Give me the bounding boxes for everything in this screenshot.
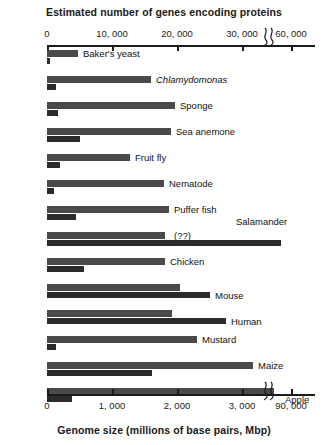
bar-genes [47, 50, 78, 57]
bar-label: Sponge [180, 100, 213, 111]
bar-genes [47, 128, 171, 135]
bar-genome-size [47, 110, 58, 116]
bar-genes [47, 232, 165, 239]
bar-label: Chicken [170, 256, 204, 267]
bar-genes [47, 310, 172, 317]
bar-genome-size [47, 370, 152, 376]
axis-tick-mark [242, 389, 244, 394]
genome-comparison-chart: Estimated number of genes encoding prote… [0, 0, 328, 445]
bar-label: Puffer fish [174, 204, 217, 215]
bar-genome-size [47, 214, 76, 220]
bar-genome-size [47, 396, 72, 402]
bar-genes [47, 206, 169, 213]
axis-tick-label: 3, 000 [229, 400, 255, 411]
bar-label: Nematode [169, 178, 213, 189]
axis-tick-label: 1, 000 [99, 400, 125, 411]
axis-tick-mark [177, 389, 179, 394]
axis-tick-mark [47, 389, 49, 394]
bar-genome-size [47, 162, 60, 168]
axis-tick-label: 90, 000 [275, 400, 307, 411]
bar-genes [47, 76, 151, 83]
bar-genome-size [47, 240, 281, 246]
axis-tick-label: 0 [44, 28, 49, 39]
bar-label-salamander: Salamander [236, 216, 287, 227]
bar-genome-size [47, 266, 84, 272]
bar-label: Sea anemone [176, 126, 235, 137]
bar-label: (??) [174, 230, 191, 241]
axis-tick-mark [291, 389, 293, 394]
bar-label: Maize [258, 360, 283, 371]
bar-genome-size [47, 318, 226, 324]
axis-tick-label: 20, 000 [161, 28, 193, 39]
bar-genes [47, 284, 180, 291]
bar-genes [47, 102, 175, 109]
bar-genome-size [47, 292, 210, 298]
bar-label: Human [231, 316, 262, 327]
bar-label: Fruit fly [135, 152, 166, 163]
axis-tick-label: 0 [44, 400, 49, 411]
top-axis-title: Estimated number of genes encoding prote… [0, 6, 328, 18]
axis-tick-label: 60, 000 [275, 28, 307, 39]
bottom-axis-title: Genome size (millions of base pairs, Mbp… [0, 424, 328, 436]
bar-genes [47, 362, 253, 369]
axis-tick-label: 10, 000 [96, 28, 128, 39]
axis-break-mark [261, 381, 275, 404]
axis-tick-mark [112, 389, 114, 394]
bar-genome-size [47, 84, 56, 90]
axis-tick-label: 2, 000 [164, 400, 190, 411]
bar-genome-size [47, 344, 56, 350]
bar-label: Baker's yeast [83, 48, 140, 59]
axis-tick-label: 30, 000 [226, 28, 258, 39]
bar-genes [47, 336, 197, 343]
bar-genes [47, 258, 165, 265]
bar-label: Mouse [215, 290, 244, 301]
bar-label: Chlamydomonas [156, 74, 227, 85]
axis-break-mark [261, 27, 275, 50]
bar-genome-size [47, 136, 80, 142]
bar-genome-size [47, 188, 54, 194]
bar-genes [47, 154, 130, 161]
bar-label: Mustard [202, 334, 236, 345]
bar-genome-size [47, 58, 50, 64]
bar-genes [47, 180, 164, 187]
